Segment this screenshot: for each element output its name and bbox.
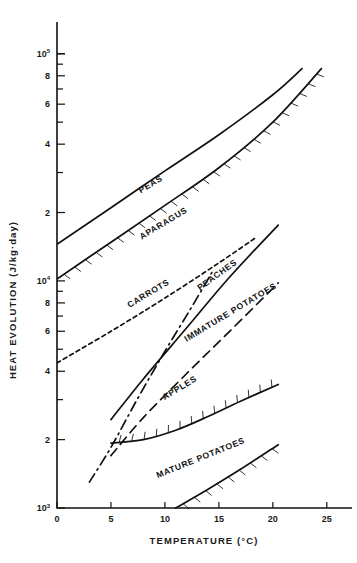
curve-hatching: [64, 74, 324, 509]
data-curves: [57, 69, 321, 508]
hatch-mark: [203, 179, 209, 183]
series-label-peas: PEAS: [137, 173, 165, 195]
y-tick-label: 4: [45, 139, 50, 149]
hatch-mark: [273, 122, 280, 125]
hatch-mark: [85, 260, 91, 265]
axis-spines: [57, 22, 352, 508]
curve-mature-potatoes-upper-: [111, 384, 278, 443]
hatch-mark: [107, 245, 113, 250]
y-tick-label: 104: [37, 275, 51, 286]
hatch-mark: [271, 380, 272, 388]
hatch-mark: [228, 477, 234, 482]
hatch-mark: [261, 456, 267, 461]
curve-aparagus: [57, 69, 321, 279]
hatch-mark: [96, 252, 102, 257]
y-tick-label: 6: [45, 326, 50, 336]
hatch-mark: [234, 156, 241, 160]
y-tick-label: 2: [45, 435, 50, 445]
hatch-mark: [254, 139, 261, 143]
y-tick-label: 4: [45, 366, 50, 376]
hatch-mark: [272, 449, 278, 454]
hatch-mark: [128, 230, 134, 235]
hatch-mark: [291, 103, 298, 106]
hatch-mark: [150, 216, 156, 221]
y-tick-label: 103: [37, 503, 51, 514]
hatch-mark: [239, 470, 245, 475]
series-label-apples: APPLES: [160, 373, 198, 401]
x-tick-label: 15: [214, 514, 224, 524]
hatch-mark: [194, 497, 200, 502]
x-axis-title: TEMPERATURE (°C): [150, 535, 259, 546]
hatch-mark: [171, 201, 177, 206]
x-tick-label: 20: [268, 514, 278, 524]
chart-figure: 103246810424681050510152025 PEASAPARAGUS…: [0, 0, 357, 563]
hatch-mark: [308, 84, 315, 87]
curve-mature-potatoes: [176, 445, 279, 508]
axes: [57, 22, 352, 508]
y-tick-label: 8: [45, 298, 50, 308]
curve-apples: [111, 283, 278, 456]
hatch-mark: [192, 187, 198, 192]
hatch-mark: [132, 434, 134, 442]
hatch-mark: [248, 390, 249, 398]
hatch-mark: [217, 484, 223, 489]
hatch-mark: [264, 131, 271, 135]
hatch-mark: [118, 238, 124, 243]
hatch-mark: [206, 491, 212, 496]
hatch-mark: [160, 209, 166, 214]
hatch-mark: [203, 411, 204, 419]
hatch-mark: [119, 435, 121, 442]
hatch-mark: [260, 385, 261, 393]
curve-immature-potatoes: [111, 225, 278, 419]
x-tick-label: 5: [108, 514, 113, 524]
y-axis-title: HEAT EVOLUTION (J/kg·day): [7, 221, 18, 379]
heat-evolution-log-chart: 103246810424681050510152025 PEASAPARAGUS…: [0, 0, 357, 563]
hatch-mark: [75, 267, 81, 272]
hatch-mark: [64, 274, 70, 279]
hatch-mark: [191, 416, 192, 424]
x-tick-label: 0: [54, 514, 59, 524]
hatch-mark: [250, 463, 256, 468]
curve-carrots: [57, 237, 257, 363]
y-tick-label: 105: [37, 48, 51, 59]
hatch-mark: [224, 164, 231, 168]
series-label-carrots: CARROTS: [125, 277, 171, 310]
hatch-mark: [214, 406, 215, 414]
y-tick-label: 6: [45, 99, 50, 109]
y-tick-label: 8: [45, 71, 50, 81]
hatch-mark: [182, 194, 188, 199]
hatch-mark: [317, 74, 324, 77]
y-tick-label: 2: [45, 208, 50, 218]
hatch-mark: [282, 113, 289, 116]
x-tick-label: 25: [322, 514, 332, 524]
series-labels: PEASAPARAGUSCARROTSPEACHESIMMATURE POTAT…: [125, 173, 278, 480]
hatch-mark: [225, 400, 226, 408]
hatch-mark: [244, 148, 251, 152]
hatch-mark: [144, 432, 145, 440]
hatch-mark: [214, 172, 220, 176]
hatch-mark: [237, 395, 238, 403]
hatch-mark: [300, 94, 307, 97]
series-label-immature-potatoes: IMMATURE POTATOES: [182, 281, 278, 344]
hatch-mark: [139, 223, 145, 228]
x-tick-label: 10: [160, 514, 170, 524]
